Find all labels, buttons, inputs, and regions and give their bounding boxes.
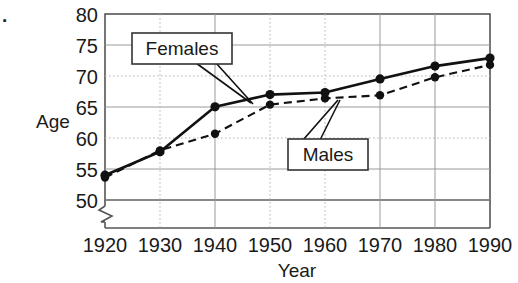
females-callout-label: Females bbox=[146, 38, 219, 59]
x-tick-label-1980: 1980 bbox=[413, 234, 458, 256]
age-by-year-line-chart: 80 75 70 65 60 55 50 1920 1930 1940 1950… bbox=[0, 0, 518, 283]
x-tick-label-1950: 1950 bbox=[248, 234, 293, 256]
females-point-1990 bbox=[485, 54, 494, 63]
males-point-1950 bbox=[266, 100, 274, 108]
females-callout-leader-left bbox=[196, 63, 251, 103]
y-tick-label-60: 60 bbox=[76, 128, 98, 150]
males-point-1940 bbox=[211, 130, 219, 138]
males-point-1980 bbox=[431, 73, 439, 81]
x-tick-label-1960: 1960 bbox=[303, 234, 348, 256]
y-tick-label-50: 50 bbox=[76, 190, 98, 212]
males-callout-leader-right bbox=[320, 100, 340, 140]
x-tick-label-1930: 1930 bbox=[138, 234, 183, 256]
chart-canvas: 80 75 70 65 60 55 50 1920 1930 1940 1950… bbox=[0, 0, 518, 283]
males-callout: Males bbox=[288, 100, 368, 170]
females-point-1950 bbox=[265, 90, 274, 99]
y-tick-label-75: 75 bbox=[76, 35, 98, 57]
males-callout-leader-left bbox=[303, 100, 338, 140]
females-callout-leader-right bbox=[216, 63, 253, 104]
x-tick-label-1990: 1990 bbox=[468, 234, 513, 256]
x-axis-title: Year bbox=[278, 260, 317, 281]
y-tick-label-80: 80 bbox=[76, 4, 98, 26]
x-tick-label-1970: 1970 bbox=[358, 234, 403, 256]
y-tick-label-55: 55 bbox=[76, 159, 98, 181]
males-point-1970 bbox=[376, 91, 384, 99]
females-point-1920 bbox=[100, 171, 109, 180]
y-axis-title: Age bbox=[36, 111, 70, 132]
females-point-1970 bbox=[375, 74, 384, 83]
y-tick-label-65: 65 bbox=[76, 97, 98, 119]
females-callout: Females bbox=[132, 33, 253, 104]
y-axis-break-icon bbox=[99, 206, 112, 222]
males-callout-label: Males bbox=[303, 144, 354, 165]
item-number-label: . bbox=[2, 5, 7, 26]
y-tick-label-70: 70 bbox=[76, 66, 98, 88]
x-axis-tick-labels: 1920 1930 1940 1950 1960 1970 1980 1990 bbox=[83, 234, 513, 256]
x-tick-label-1940: 1940 bbox=[193, 234, 238, 256]
females-point-1960 bbox=[320, 88, 329, 97]
females-point-1980 bbox=[430, 62, 439, 71]
x-tick-label-1920: 1920 bbox=[83, 234, 128, 256]
females-point-1940 bbox=[210, 102, 219, 111]
y-axis-tick-labels: 80 75 70 65 60 55 50 bbox=[76, 4, 98, 212]
females-point-1930 bbox=[155, 147, 164, 156]
